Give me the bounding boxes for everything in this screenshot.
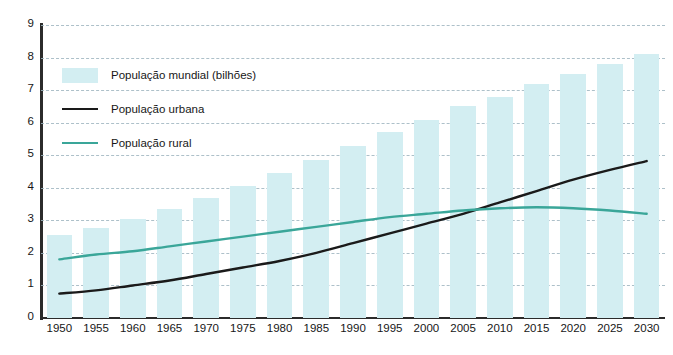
x-tick-label: 1955 <box>83 322 109 334</box>
y-tick-label: 9 <box>14 17 34 29</box>
x-tick-label: 1960 <box>120 322 146 334</box>
population-chart: 0123456789 19501955196019651970197519801… <box>0 0 673 355</box>
y-tick-label: 8 <box>14 50 34 62</box>
x-tick-label: 1990 <box>340 322 366 334</box>
y-tick-label: 6 <box>14 115 34 127</box>
legend-line-urban-icon <box>62 102 98 117</box>
x-tick-label: 2020 <box>560 322 586 334</box>
x-tick-label: 2025 <box>597 322 623 334</box>
x-axis-tick-labels: 1950195519601965197019751980198519901995… <box>41 322 665 348</box>
x-tick-label: 1985 <box>303 322 329 334</box>
x-tick-label: 1970 <box>193 322 219 334</box>
y-tick-label: 5 <box>14 147 34 159</box>
y-tick-label: 2 <box>14 245 34 257</box>
line-rural <box>59 207 646 259</box>
line-urban <box>59 161 646 293</box>
x-tick-label: 1965 <box>157 322 183 334</box>
legend-label-populacao-urbana: População urbana <box>111 103 204 115</box>
x-tick-label: 2030 <box>634 322 660 334</box>
legend-label-populacao-mundial: População mundial (bilhões) <box>111 69 256 81</box>
x-tick-label: 1950 <box>47 322 73 334</box>
y-tick-label: 3 <box>14 212 34 224</box>
legend-line-rural-icon <box>62 136 98 151</box>
x-tick-label: 1995 <box>377 322 403 334</box>
y-tick-label: 1 <box>14 277 34 289</box>
legend-swatch-icon <box>62 68 98 83</box>
x-tick-label: 1975 <box>230 322 256 334</box>
legend-label-populacao-rural: População rural <box>111 137 192 149</box>
chart-legend: População mundial (bilhões) População ur… <box>62 58 302 160</box>
x-tick-label: 2000 <box>414 322 440 334</box>
x-tick-label: 2010 <box>487 322 513 334</box>
legend-item-populacao-urbana: População urbana <box>62 92 302 126</box>
y-tick-label: 0 <box>14 310 34 322</box>
legend-item-populacao-rural: População rural <box>62 126 302 160</box>
x-tick-label: 1980 <box>267 322 293 334</box>
legend-item-populacao-mundial: População mundial (bilhões) <box>62 58 302 92</box>
x-tick-label: 2015 <box>524 322 550 334</box>
y-tick-label: 4 <box>14 180 34 192</box>
x-tick-label: 2005 <box>450 322 476 334</box>
y-tick-label: 7 <box>14 82 34 94</box>
